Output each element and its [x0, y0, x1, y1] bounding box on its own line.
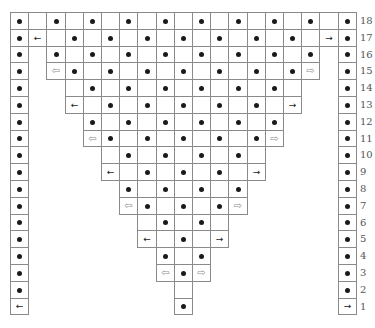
chart-cell: [228, 12, 248, 30]
chart-cell: [338, 230, 357, 248]
chart-cell: [46, 29, 66, 47]
dot-icon: [236, 153, 241, 158]
chart-cell: [156, 79, 175, 97]
chart-cell: [338, 130, 357, 147]
dot-icon: [308, 19, 313, 24]
dot-icon: [181, 36, 186, 41]
chart-cell: [10, 146, 29, 164]
chart-cell: [83, 113, 102, 131]
dot-icon: [290, 36, 295, 41]
dot-icon: [345, 271, 350, 276]
dot-icon: [17, 271, 22, 276]
dot-icon: [17, 220, 22, 225]
dot-icon: [181, 136, 186, 141]
chart-cell: [228, 96, 248, 114]
chart-cell: [10, 214, 29, 231]
chart-cell: [137, 130, 157, 147]
dot-icon: [345, 52, 350, 57]
dot-icon: [17, 69, 22, 74]
dot-icon: [145, 170, 150, 175]
chart-cell: ⇨: [192, 264, 211, 282]
chart-cell: ←: [137, 230, 157, 248]
arrow-right-icon: →: [216, 235, 224, 244]
chart-cell: [192, 62, 211, 80]
dot-icon: [236, 52, 241, 57]
row-number: 17: [360, 33, 373, 43]
chart-cell: [210, 180, 229, 198]
chart-cell: [10, 247, 29, 265]
chart-cell: [265, 29, 284, 47]
dot-icon: [17, 237, 22, 242]
dot-icon: [345, 170, 350, 175]
chart-cell: [228, 79, 248, 97]
dot-icon: [17, 170, 22, 175]
chart-cell: [137, 197, 157, 215]
dot-icon: [163, 220, 168, 225]
dot-icon: [181, 103, 186, 108]
dot-icon: [199, 52, 204, 57]
chart-cell: [137, 12, 157, 30]
chart-cell: [10, 29, 29, 47]
row-number: 10: [360, 150, 373, 160]
chart-cell: [10, 62, 29, 80]
dot-icon: [199, 120, 204, 125]
dot-icon: [254, 36, 259, 41]
dot-icon: [199, 19, 204, 24]
dot-icon: [199, 153, 204, 158]
chart-cell: [156, 96, 175, 114]
dot-icon: [17, 103, 22, 108]
chart-cell: [101, 46, 120, 63]
chart-cell: [338, 197, 357, 215]
dot-icon: [17, 120, 22, 125]
chart-cell: [283, 46, 302, 63]
dot-icon: [217, 136, 222, 141]
row-number: 11: [360, 134, 373, 144]
dot-icon: [272, 52, 277, 57]
row-number: 13: [360, 100, 373, 110]
chart-cell: ⇨: [265, 130, 284, 147]
chart-cell: [137, 79, 157, 97]
dot-icon: [236, 120, 241, 125]
row-number: 1: [360, 302, 366, 312]
chart-cell: [174, 163, 193, 181]
dot-icon: [254, 69, 259, 74]
chart-cell: [338, 29, 357, 47]
chart-cell: [247, 46, 266, 63]
dot-icon: [272, 120, 277, 125]
hollow-arrow-right-icon: ⇨: [197, 268, 205, 278]
chart-cell: [192, 163, 211, 181]
chart-cell: →: [338, 298, 357, 315]
dot-icon: [272, 19, 277, 24]
dot-icon: [163, 52, 168, 57]
dot-icon: [217, 204, 222, 209]
chart-cell: [192, 214, 211, 231]
dot-icon: [345, 153, 350, 158]
chart-cell: [119, 12, 138, 30]
chart-cell: [283, 62, 302, 80]
chart-cell: [137, 180, 157, 198]
arrow-right-icon: →: [289, 101, 297, 110]
dot-icon: [345, 254, 350, 259]
chart-cell: [338, 180, 357, 198]
chart-cell: ←: [10, 298, 29, 315]
dot-icon: [181, 237, 186, 242]
dot-icon: [17, 86, 22, 91]
dot-icon: [54, 19, 59, 24]
chart-cell: [192, 230, 211, 248]
chart-cell: [247, 113, 266, 131]
hollow-arrow-left-icon: ⇦: [52, 66, 60, 76]
dot-icon: [345, 220, 350, 225]
chart-cell: [192, 180, 211, 198]
chart-cell: [192, 96, 211, 114]
chart-cell: [156, 62, 175, 80]
chart-cell: [83, 79, 102, 97]
chart-cell: [338, 214, 357, 231]
chart-cell: [10, 12, 29, 30]
chart-cell: [338, 46, 357, 63]
dot-icon: [345, 187, 350, 192]
chart-cell: [338, 146, 357, 164]
dot-icon: [345, 19, 350, 24]
chart-cell: ⇦: [83, 130, 102, 147]
chart-cell: [101, 96, 120, 114]
dot-icon: [345, 204, 350, 209]
